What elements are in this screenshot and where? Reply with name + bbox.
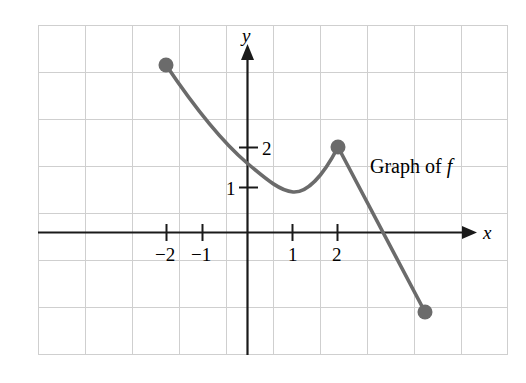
y-axis-label: y bbox=[242, 26, 250, 45]
graph-of-f-annotation: Graph of f bbox=[370, 156, 452, 176]
function-curve bbox=[166, 65, 425, 312]
x-axis-arrow bbox=[462, 226, 477, 239]
graph-canvas bbox=[0, 0, 526, 383]
x-tick-label-neg2: −2 bbox=[155, 245, 175, 264]
graph-figure: −2 −1 1 2 1 2 y x Graph of f bbox=[0, 0, 526, 383]
x-tick-label-pos2: 2 bbox=[332, 245, 342, 264]
corner-maximum-dot bbox=[331, 140, 346, 155]
x-axis-label: x bbox=[483, 223, 491, 242]
x-axis bbox=[38, 226, 477, 239]
y-tick-label-two: 2 bbox=[262, 139, 272, 158]
y-axis bbox=[241, 44, 254, 355]
grid-lines bbox=[38, 25, 508, 355]
y-axis-arrow bbox=[241, 44, 254, 60]
left-endpoint-dot bbox=[159, 58, 174, 73]
graph-of-f-text: Graph of bbox=[370, 155, 442, 177]
curve-points bbox=[159, 58, 433, 320]
right-endpoint-dot bbox=[418, 305, 433, 320]
graph-of-f-function-symbol: f bbox=[447, 155, 453, 177]
x-tick-label-neg1: −1 bbox=[191, 245, 211, 264]
x-tick-label-pos1: 1 bbox=[288, 245, 298, 264]
y-tick-label-one: 1 bbox=[226, 179, 236, 198]
